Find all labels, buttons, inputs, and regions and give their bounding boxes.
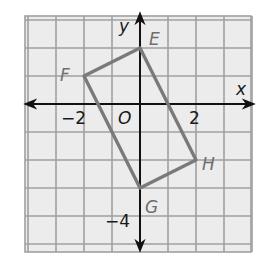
y-axis-label: y: [118, 16, 130, 36]
tick-label-x-neg2: −2: [61, 108, 86, 128]
vertex-label-e: E: [149, 29, 160, 49]
coordinate-plane: y x O −2 2 −4 E H G F: [0, 0, 262, 254]
tick-label-x-2: 2: [189, 108, 200, 128]
vertex-label-h: H: [202, 154, 215, 174]
origin-label: O: [118, 108, 131, 128]
vertex-label-g: G: [145, 197, 158, 217]
tick-label-y-neg4: −4: [105, 211, 130, 231]
x-axis-label: x: [235, 79, 247, 99]
vertex-label-f: F: [60, 65, 70, 85]
